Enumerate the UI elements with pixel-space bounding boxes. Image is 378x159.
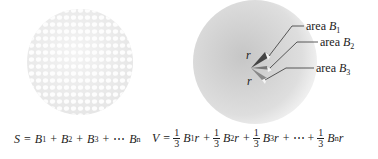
dimpled-sphere [27, 9, 133, 115]
radius-label-top: r [246, 48, 251, 63]
area-label-b3: area B3 [316, 61, 350, 77]
area-label-b1: area B1 [306, 19, 340, 35]
fraction: 13 [317, 128, 324, 149]
shaded-sphere [193, 0, 317, 124]
fraction: 13 [253, 128, 260, 149]
radius-label-bottom: r [247, 74, 252, 89]
fraction: 13 [173, 128, 180, 149]
fraction: 13 [213, 128, 220, 149]
area-label-b2: area B2 [320, 35, 354, 51]
volume-equation: V = 13 B1r + 13 B2r + 13 B3r + ⋯ + 13 Bn… [152, 128, 343, 149]
surface-area-equation: S = B1 + B2 + B3 + ⋯ Bn [14, 132, 141, 147]
